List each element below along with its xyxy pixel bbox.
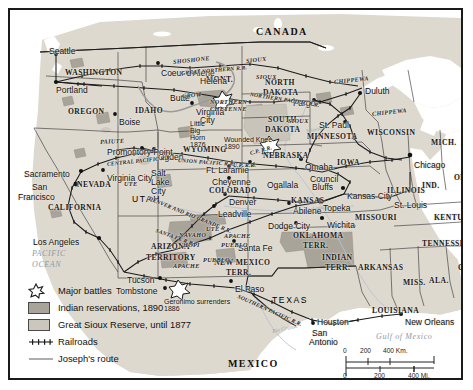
battle-star-icon — [28, 283, 58, 299]
scale-mi-0: 0 — [343, 372, 347, 379]
great-sioux-reserve-1877 — [244, 104, 290, 144]
scale-mi-400: 400 Mi. — [408, 372, 430, 379]
map-scale-bar: 0 200 400 Km. 0 200 400 Mi. — [340, 347, 450, 380]
railroad-line-icon — [28, 338, 58, 346]
legend-label-josephs-route: Joseph's route — [58, 353, 119, 364]
legend-item-major-battles: Major battles — [28, 282, 210, 299]
legend-item-great-sioux-reserve: Great Sioux Reserve, until 1877 — [28, 316, 210, 333]
legend-item-indian-reservations: Indian reservations, 1890 — [28, 299, 210, 316]
legend-item-railroads: Railroads — [28, 333, 210, 350]
map-legend: Major battles Indian reservations, 1890 … — [28, 282, 210, 367]
legend-label-major-battles: Major battles — [58, 285, 112, 296]
dark-swatch-icon — [28, 302, 58, 314]
legend-label-indian-reservations: Indian reservations, 1890 — [58, 302, 163, 313]
light-swatch-icon — [28, 319, 58, 331]
scale-km-200: 200 — [360, 347, 371, 354]
scale-km-400: 400 Km. — [383, 347, 408, 354]
route-line-icon — [28, 355, 58, 363]
map-frame: CANADAMEXICOPACIFICOCEANGulf of MexicoAr… — [8, 8, 463, 380]
legend-label-great-sioux-reserve: Great Sioux Reserve, until 1877 — [58, 319, 191, 330]
legend-item-josephs-route: Joseph's route — [28, 350, 210, 367]
legend-label-railroads: Railroads — [58, 336, 98, 347]
scale-mi-200: 200 — [374, 372, 385, 379]
scale-km-0: 0 — [343, 347, 347, 354]
